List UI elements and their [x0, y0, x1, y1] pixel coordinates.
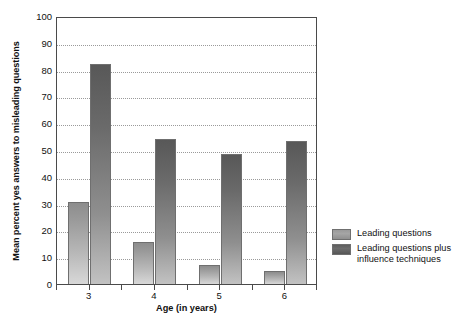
- y-axis-tick-label: 0: [24, 280, 52, 290]
- y-axis-tick-label: 100: [24, 12, 52, 22]
- y-axis-tick-label: 50: [24, 146, 52, 156]
- legend-swatch-icon: [332, 244, 351, 255]
- legend-item-2: Leading questions plus influence techniq…: [332, 243, 466, 265]
- legend: Leading questionsLeading questions plus …: [332, 228, 466, 268]
- x-axis-tick-labels: 3456: [56, 290, 317, 304]
- legend-item-label: Leading questions plus influence techniq…: [357, 243, 451, 265]
- y-axis-tick-labels: 1009080706050403020100: [24, 17, 52, 285]
- y-axis-tick-label: 10: [24, 253, 52, 263]
- y-axis-tick-label: 30: [24, 200, 52, 210]
- y-axis-tick-label: 80: [24, 66, 52, 76]
- y-axis-tick-label: 60: [24, 119, 52, 129]
- y-axis-title: Mean percent yes answers to misleading q…: [11, 31, 21, 271]
- plot-area: [56, 17, 317, 285]
- y-axis-tick-label: 20: [24, 226, 52, 236]
- x-axis-tick-label: 3: [69, 290, 109, 301]
- bar-6-series1: [264, 271, 285, 284]
- bar-5-series1: [199, 265, 220, 284]
- legend-item-1: Leading questions: [332, 228, 466, 240]
- x-axis-title: Age (in years): [56, 303, 317, 313]
- legend-swatch-icon: [332, 229, 351, 240]
- bar-4-series1: [133, 242, 154, 284]
- bar-3-series1: [68, 202, 89, 284]
- bar-chart: Mean percent yes answers to misleading q…: [0, 0, 468, 319]
- bar-4-series2: [155, 139, 176, 284]
- y-axis-tick-label: 70: [24, 92, 52, 102]
- y-axis-tick-label: 90: [24, 39, 52, 49]
- legend-item-label: Leading questions: [357, 228, 432, 239]
- x-axis-tick-label: 5: [199, 290, 239, 301]
- y-axis-tick-label: 40: [24, 173, 52, 183]
- bar-3-series2: [90, 64, 111, 284]
- bar-6-series2: [286, 141, 307, 284]
- x-axis-tick-label: 6: [264, 290, 304, 301]
- x-axis-tick-label: 4: [134, 290, 174, 301]
- bars-layer: [57, 18, 316, 284]
- bar-5-series2: [221, 154, 242, 284]
